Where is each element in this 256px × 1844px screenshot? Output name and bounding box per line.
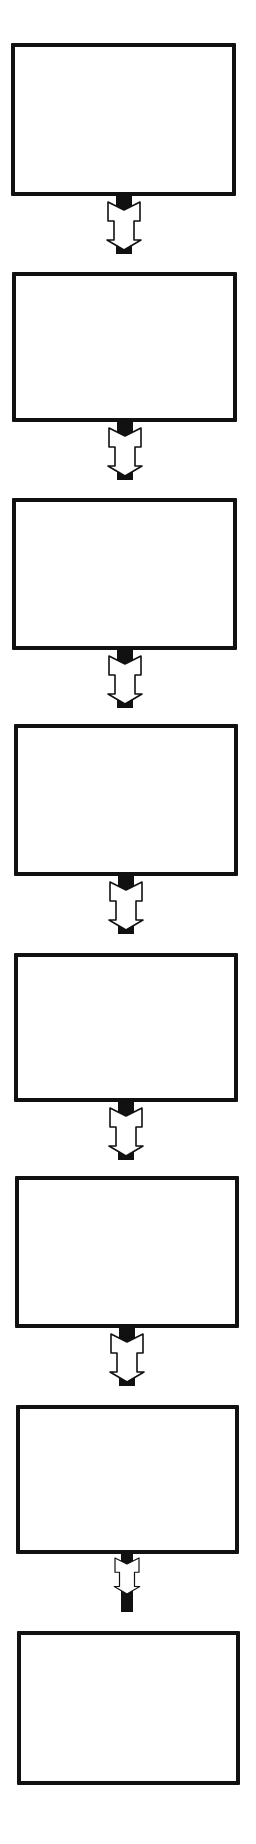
flow-step-box-7 xyxy=(16,1405,239,1554)
connector-7-8 xyxy=(107,1552,147,1612)
down-arrow-icon xyxy=(106,874,146,934)
connector-4-5 xyxy=(106,874,146,934)
down-arrow-icon xyxy=(104,194,144,254)
flow-step-box-5 xyxy=(14,953,238,1102)
down-arrow-icon xyxy=(107,1552,147,1612)
flow-step-box-8 xyxy=(17,1631,240,1785)
connector-6-7 xyxy=(107,1326,147,1386)
flow-step-box-4 xyxy=(14,724,238,876)
connector-3-4 xyxy=(105,648,145,708)
flow-step-box-1 xyxy=(11,43,236,196)
down-arrow-icon xyxy=(105,420,145,480)
down-arrow-icon xyxy=(107,1326,147,1386)
connector-2-3 xyxy=(105,420,145,480)
down-arrow-icon xyxy=(106,1100,146,1160)
flow-step-box-3 xyxy=(12,498,237,650)
connector-5-6 xyxy=(106,1100,146,1160)
flowchart-diagram xyxy=(0,0,256,1844)
down-arrow-icon xyxy=(105,648,145,708)
flow-step-box-2 xyxy=(12,272,237,422)
flow-step-box-6 xyxy=(15,1176,239,1328)
connector-1-2 xyxy=(104,194,144,254)
